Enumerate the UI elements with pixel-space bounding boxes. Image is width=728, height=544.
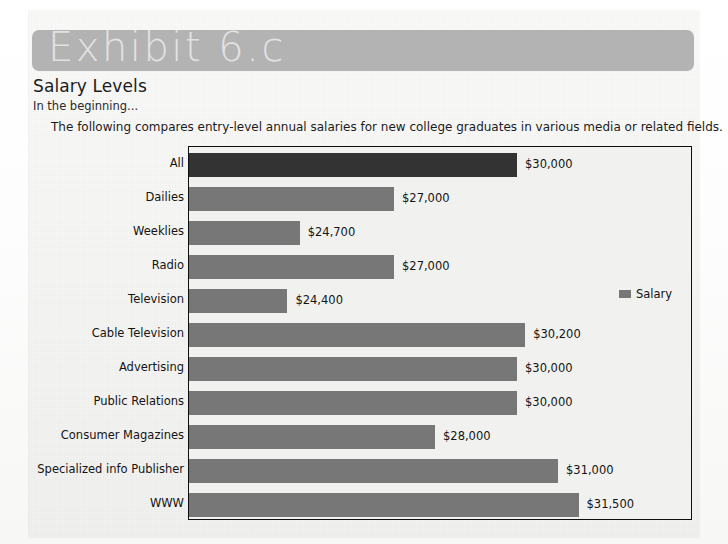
chart-bar-value-label: $31,500 xyxy=(587,497,635,511)
chart-category-label: Weeklies xyxy=(4,224,184,238)
chart-bar-value-label: $27,000 xyxy=(402,191,450,205)
chart-bar-row: $27,000 xyxy=(189,183,693,217)
chart-bar xyxy=(189,357,517,381)
chart-category-axis: AllDailiesWeekliesRadioTelevisionCable T… xyxy=(2,146,184,520)
chart-category-label: Public Relations xyxy=(4,394,184,408)
chart-category-label: Specialized info Publisher xyxy=(4,462,184,476)
chart-bar xyxy=(189,289,287,313)
chart-bar xyxy=(189,493,579,517)
chart-category-label: WWW xyxy=(4,496,184,510)
chart-bar-value-label: $30,000 xyxy=(525,157,573,171)
chart-bar xyxy=(189,255,394,279)
chart-bar-row: $24,700 xyxy=(189,217,693,251)
chart-bar xyxy=(189,153,517,177)
chart-bar xyxy=(189,323,525,347)
page-subtitle: In the beginning... xyxy=(33,99,138,113)
legend-label-salary: Salary xyxy=(636,287,672,301)
chart-bar xyxy=(189,391,517,415)
chart-bar xyxy=(189,187,394,211)
chart-bar-value-label: $30,000 xyxy=(525,361,573,375)
chart-category-label: Advertising xyxy=(4,360,184,374)
scanned-page: Exhibit 6.c Salary Levels In the beginni… xyxy=(0,0,728,544)
chart-bar-value-label: $28,000 xyxy=(443,429,491,443)
exhibit-banner-label: Exhibit 6.c xyxy=(48,24,286,70)
chart-bar-value-label: $24,700 xyxy=(308,225,356,239)
chart-category-label: Television xyxy=(4,292,184,306)
chart-bar xyxy=(189,221,300,245)
chart-category-label: Consumer Magazines xyxy=(4,428,184,442)
chart-bar-value-label: $30,000 xyxy=(525,395,573,409)
chart-bar-value-label: $30,200 xyxy=(533,327,581,341)
chart-bar xyxy=(189,459,558,483)
exhibit-banner: Exhibit 6.c xyxy=(32,30,694,71)
chart-category-label: Cable Television xyxy=(4,326,184,340)
chart-bar-row: $30,000 xyxy=(189,149,693,183)
chart-bar-row: $30,000 xyxy=(189,353,693,387)
chart-bar-row: $30,000 xyxy=(189,387,693,421)
chart-bar-row: $31,500 xyxy=(189,489,693,523)
chart-legend: Salary xyxy=(619,287,672,301)
chart-bar-value-label: $31,000 xyxy=(566,463,614,477)
chart-plot-area: $30,000$27,000$24,700$27,000$24,400$30,2… xyxy=(189,147,693,521)
chart-bar-value-label: $27,000 xyxy=(402,259,450,273)
page-title: Salary Levels xyxy=(33,76,147,96)
chart-bar-row: $27,000 xyxy=(189,251,693,285)
chart-bar-row: $31,000 xyxy=(189,455,693,489)
chart-category-label: All xyxy=(4,156,184,170)
chart-category-label: Dailies xyxy=(4,190,184,204)
legend-swatch-salary xyxy=(619,290,631,298)
chart-bar-row: $28,000 xyxy=(189,421,693,455)
chart-bar-value-label: $24,400 xyxy=(295,293,343,307)
chart-bar xyxy=(189,425,435,449)
chart-frame: $30,000$27,000$24,700$27,000$24,400$30,2… xyxy=(188,146,692,520)
chart-bar-row: $30,200 xyxy=(189,319,693,353)
chart-bar-row: $24,400 xyxy=(189,285,693,319)
page-description: The following compares entry-level annua… xyxy=(51,120,723,134)
chart-category-label: Radio xyxy=(4,258,184,272)
